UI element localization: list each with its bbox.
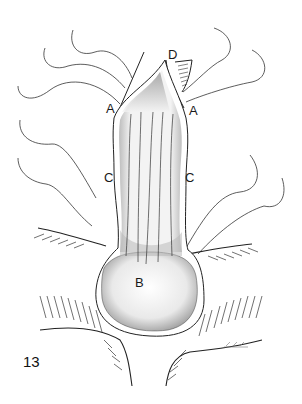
label-d: D	[168, 48, 177, 61]
label-b: B	[135, 276, 144, 289]
label-c-left: C	[104, 171, 113, 184]
label-a-left: A	[106, 102, 115, 115]
label-a-right: A	[189, 104, 198, 117]
figure-number: 13	[23, 354, 40, 369]
suture-lines-right	[183, 28, 284, 254]
surgical-illustration	[0, 0, 302, 404]
sac-fundus-interior	[102, 252, 198, 331]
label-c-right: C	[185, 171, 194, 184]
